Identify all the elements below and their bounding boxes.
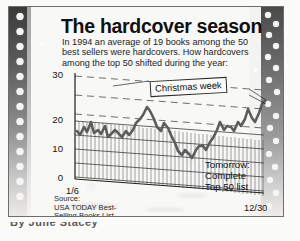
ytick-label-10: 10 xyxy=(41,143,63,154)
promo-line-3: Top 50 list xyxy=(205,181,250,192)
page-title: The hardcover season xyxy=(61,16,262,36)
ytick-label-0: 0 xyxy=(41,172,63,183)
paper-smudge xyxy=(67,203,119,209)
graphic-page: The hardcover season In 1994 an average … xyxy=(27,7,249,216)
paper-smudge xyxy=(145,207,185,212)
clipping-frame: The hardcover season In 1994 an average … xyxy=(8,6,284,217)
bottom-bleed-fragment: By Julie Stacey xyxy=(10,222,130,232)
bottom-bleed-text: By Julie Stacey xyxy=(10,222,130,228)
tomorrow-promo: Tomorrow: Complete Top 50 list xyxy=(205,159,250,193)
newsprint-scan: The hardcover season In 1994 an average … xyxy=(0,0,300,241)
promo-line-2: Complete xyxy=(205,170,250,181)
subtitle-deck: In 1994 an average of 19 books among the… xyxy=(62,37,252,68)
ytick-label-30: 30 xyxy=(41,69,63,80)
paper-smudge xyxy=(177,193,207,198)
ytick-label-20: 20 xyxy=(41,114,63,125)
xtick-label-end: 12/30 xyxy=(244,203,267,213)
promo-line-1: Tomorrow: xyxy=(205,159,250,170)
